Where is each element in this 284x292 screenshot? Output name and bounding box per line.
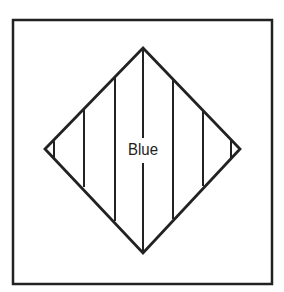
diamond-label: Blue — [117, 138, 170, 162]
